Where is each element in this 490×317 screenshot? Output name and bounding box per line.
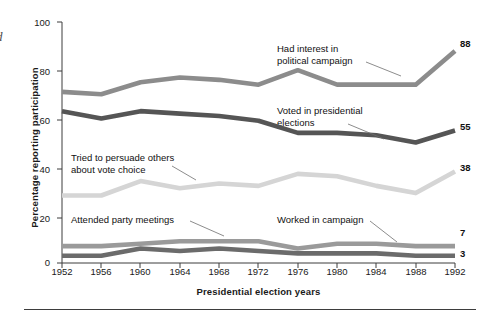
series-line-voted (62, 111, 455, 142)
bottom-horizontal-rule (24, 309, 476, 310)
x-axis-ticks (62, 263, 455, 268)
leader-line-worked (370, 221, 397, 242)
data-series-group (62, 51, 455, 256)
figure-root: d Percentage reporting participation Pre… (0, 0, 490, 317)
leader-line-persuade (172, 166, 196, 180)
series-line-worked (62, 249, 455, 256)
series-line-persuade (62, 171, 455, 195)
series-line-had-interest (62, 51, 455, 94)
chart-plot-area (0, 0, 490, 317)
annotation-leader-lines (172, 62, 401, 242)
series-line-attended (62, 241, 455, 248)
y-axis-ticks (57, 22, 62, 263)
leader-line-had-interest (366, 62, 401, 76)
leader-line-attended (190, 221, 224, 236)
